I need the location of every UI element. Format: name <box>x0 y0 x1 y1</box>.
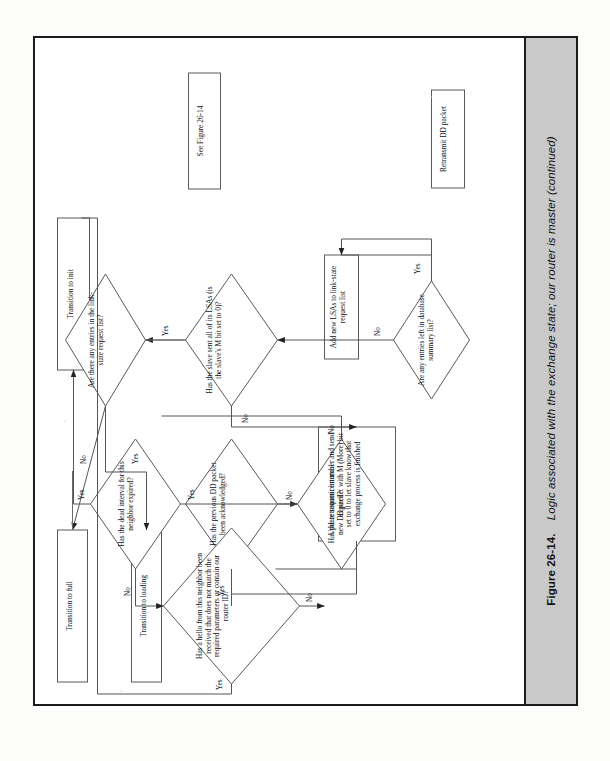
flowchart-region: Transition to full Transition to loading… <box>35 38 528 704</box>
figure-caption: Figure 26-14. Logic associated with the … <box>545 136 557 605</box>
figure-caption-text: Logic associated with the exchange state… <box>545 136 557 520</box>
scanned-page: Transition to full Transition to loading… <box>0 0 610 761</box>
figure-number: Figure 26-14. <box>545 533 557 605</box>
scan-speck <box>430 96 432 98</box>
scan-speck <box>64 420 66 423</box>
scan-speck <box>120 690 123 692</box>
figure-frame: Transition to full Transition to loading… <box>33 36 578 706</box>
flowchart-svg <box>35 38 528 704</box>
flowchart-rotated-canvas: Transition to full Transition to loading… <box>35 38 528 704</box>
figure-caption-band: Figure 26-14. Logic associated with the … <box>524 38 576 704</box>
